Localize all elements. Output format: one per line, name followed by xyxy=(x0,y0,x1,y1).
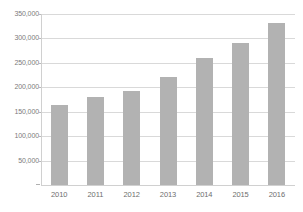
x-axis-line xyxy=(41,185,295,186)
origin-tick-icon xyxy=(36,184,40,185)
bar-chart: 50,000100,000150,000200,000250,000300,00… xyxy=(0,0,303,212)
bar xyxy=(268,23,285,185)
x-axis-tick-label: 2013 xyxy=(150,190,186,200)
x-axis-tick-label: 2011 xyxy=(77,190,113,200)
bar xyxy=(51,105,68,185)
y-axis-tick-label: 150,000 xyxy=(1,108,39,116)
bar xyxy=(123,91,140,185)
x-axis-tick-labels: 2010201120122013201420152016 xyxy=(41,190,295,204)
y-axis-tick-label: 300,000 xyxy=(1,34,39,42)
y-axis-tick-label: 50,000 xyxy=(1,157,39,165)
x-axis-tick-label: 2014 xyxy=(186,190,222,200)
x-axis-tick-label: 2010 xyxy=(41,190,77,200)
bar xyxy=(160,77,177,185)
bars-layer xyxy=(41,14,295,185)
x-axis-tick-label: 2012 xyxy=(114,190,150,200)
y-axis-tick-labels: 50,000100,000150,000200,000250,000300,00… xyxy=(0,14,39,185)
y-axis-tick-label: 350,000 xyxy=(1,10,39,18)
x-axis-tick-label: 2016 xyxy=(259,190,295,200)
bar xyxy=(196,58,213,185)
y-axis-tick-label: 250,000 xyxy=(1,59,39,67)
x-axis-tick-label: 2015 xyxy=(222,190,258,200)
y-axis-tick-label: 100,000 xyxy=(1,132,39,140)
bar xyxy=(232,43,249,185)
bar xyxy=(87,97,104,185)
y-axis-tick-label: 200,000 xyxy=(1,83,39,91)
